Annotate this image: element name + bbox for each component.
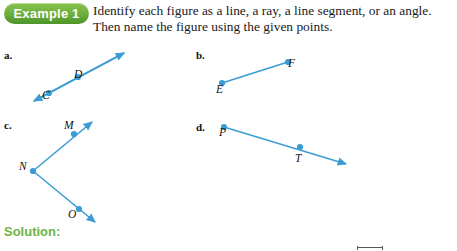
point-N-dot [30, 168, 36, 174]
figure-c-ray-NM [33, 122, 92, 171]
figure-b-segment [196, 45, 396, 110]
solution-heading: Solution: [4, 224, 60, 239]
figure-a-line [0, 45, 200, 110]
figure-d-ray [196, 115, 436, 185]
point-label-P: P [219, 126, 226, 138]
prompt-line-2: Then name the figure using the given poi… [93, 19, 455, 35]
point-label-T: T [295, 152, 301, 164]
point-label-D: D [74, 68, 82, 80]
point-label-N: N [19, 160, 27, 172]
worksheet-page: Example 1 Identify each figure as a line… [0, 0, 457, 251]
figure-c-angle [0, 115, 190, 225]
overline-tick-right [382, 246, 383, 250]
overline-bar [357, 247, 383, 248]
point-M-dot [71, 131, 77, 137]
example-badge-label: Example 1 [13, 6, 79, 21]
figure-d-stroke [224, 127, 346, 164]
prompt-line-1: Identify each figure as a line, a ray, a… [93, 3, 455, 19]
prompt-text: Identify each figure as a line, a ray, a… [93, 3, 455, 34]
figure-c-ray-NO [33, 171, 95, 222]
point-label-F: F [288, 57, 295, 69]
point-label-M: M [64, 119, 74, 131]
point-label-C: C [42, 89, 50, 101]
example-badge: Example 1 [4, 3, 89, 24]
point-T-dot [297, 144, 303, 150]
cutoff-overline-notation [357, 246, 383, 251]
figure-b-stroke [222, 62, 288, 83]
point-label-E: E [216, 83, 223, 95]
point-label-O: O [68, 208, 76, 220]
point-O-dot [76, 206, 82, 212]
